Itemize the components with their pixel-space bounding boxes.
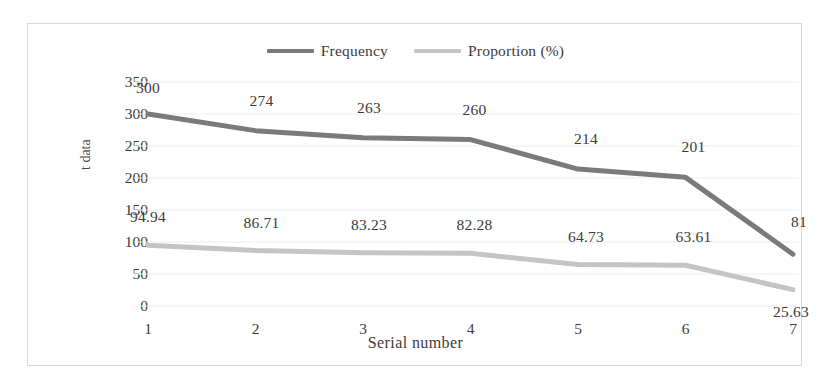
chart-figure: Frequency Proportion (%) t data Serial n…: [0, 0, 822, 392]
data-label-frequency: 260: [463, 101, 487, 119]
data-label-frequency: 81: [791, 213, 807, 231]
data-label-proportion: 63.61: [676, 228, 712, 246]
data-label-frequency: 274: [250, 92, 274, 110]
series-line-proportion: [148, 245, 793, 289]
data-label-proportion: 25.63: [773, 303, 809, 321]
data-label-frequency: 201: [682, 138, 706, 156]
plot-svg: [28, 24, 803, 367]
data-label-proportion: 83.23: [351, 216, 387, 234]
data-label-proportion: 94.94: [130, 208, 166, 226]
data-label-proportion: 86.71: [244, 214, 280, 232]
chart-frame: Frequency Proportion (%) t data Serial n…: [27, 23, 802, 366]
data-label-frequency: 263: [357, 99, 381, 117]
data-label-proportion: 82.28: [457, 216, 493, 234]
data-label-proportion: 64.73: [568, 228, 604, 246]
plot-area: t data Serial number 0501001502002503003…: [28, 24, 803, 367]
data-label-frequency: 300: [136, 79, 160, 97]
data-label-frequency: 214: [574, 130, 598, 148]
